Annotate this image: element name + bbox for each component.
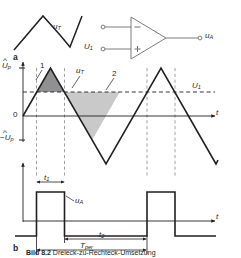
- label-x-axis-upper-t: t: [216, 109, 218, 117]
- figure-root: uT a U1 uA Up 0 −Up 1 uT 2 U1 t t1 uA t2…: [0, 0, 241, 258]
- label-triangle-ut-a: uT: [53, 23, 61, 32]
- label-y-axis-up: Up: [2, 62, 11, 71]
- panel-a-opamp-circuit: [101, 17, 202, 59]
- panel-b-id: b: [13, 243, 18, 253]
- opamp-body: [131, 17, 166, 59]
- opamp-inverting-terminal: [101, 25, 105, 29]
- label-opamp-output-ua: uA: [205, 32, 213, 41]
- panel-a-id: a: [13, 52, 18, 62]
- leader-ua: [66, 196, 74, 201]
- opamp-output-terminal: [198, 36, 202, 40]
- label-y-axis-down: −Up: [0, 134, 14, 143]
- leader-ut: [72, 76, 80, 88]
- label-y-axis-zero: 0: [13, 110, 17, 119]
- label-region-1: 1: [40, 61, 44, 70]
- label-dimension-t2: t2: [99, 231, 104, 240]
- label-opamp-input-u1: U1: [84, 43, 93, 52]
- label-waveform-ut: uT: [76, 67, 84, 76]
- label-region-2: 2: [112, 69, 116, 78]
- figure-caption: Bild 8.2 Dreieck-zu-Rechteck-Umsetzung: [26, 249, 156, 258]
- panel-a-triangle-sketch: [14, 16, 82, 50]
- label-threshold-u1: U1: [192, 82, 201, 91]
- y-axis-ticks-upper: [19, 68, 25, 140]
- label-x-axis-lower-t: t: [216, 213, 218, 221]
- label-dimension-t1: t1: [44, 174, 49, 183]
- leader-region-2: [106, 78, 114, 90]
- leader-region-1: [36, 70, 42, 80]
- label-waveform-ua: uA: [75, 197, 83, 206]
- dimension-t2: [65, 236, 148, 243]
- waveform-square-ua: [15, 192, 216, 236]
- opamp-noninverting-terminal: [101, 47, 105, 51]
